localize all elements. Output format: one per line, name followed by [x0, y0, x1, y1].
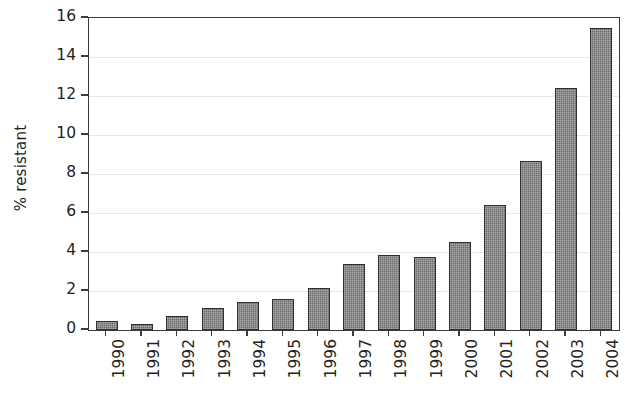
x-axis-tick: [423, 331, 425, 336]
x-axis-tick-label: 1999: [430, 339, 446, 378]
x-axis-tick: [564, 331, 566, 336]
bar-1992: [166, 316, 188, 330]
y-axis-tick-label: 14: [56, 48, 76, 64]
bar-1999: [414, 257, 436, 330]
x-axis-tick-label: 1997: [359, 339, 375, 378]
x-axis-tick: [494, 331, 496, 336]
x-axis-tick-label: 1994: [253, 339, 269, 378]
x-axis-tick: [458, 331, 460, 336]
y-axis-tick: [81, 211, 88, 213]
bar-2001: [484, 205, 506, 330]
y-axis-tick-label: 10: [56, 126, 76, 142]
x-axis-tick-label: 2001: [500, 339, 516, 378]
x-axis-tick: [105, 331, 107, 336]
x-axis-tick-label: 2003: [571, 339, 587, 378]
y-axis-tick-label: 12: [56, 87, 76, 103]
y-axis-tick: [81, 94, 88, 96]
x-axis-tick: [282, 331, 284, 336]
x-axis-tick: [211, 331, 213, 336]
x-axis-tick: [529, 331, 531, 336]
bar-1996: [308, 288, 330, 330]
bar-2000: [449, 242, 471, 330]
y-axis-tick: [81, 289, 88, 291]
y-axis-tick-label: 2: [66, 282, 76, 298]
y-axis-tick: [81, 16, 88, 18]
y-axis-tick-label: 16: [56, 9, 76, 25]
bar-2003: [555, 88, 577, 330]
x-axis-tick-label: 2000: [465, 339, 481, 378]
bar-2004: [590, 28, 612, 330]
bars-layer: [89, 18, 619, 330]
x-axis-tick-label: 1993: [218, 339, 234, 378]
x-axis-tick-label: 1990: [112, 339, 128, 378]
bar-2002: [520, 161, 542, 330]
x-axis: 1990199119921993199419951996199719981999…: [88, 331, 622, 411]
x-axis-tick: [388, 331, 390, 336]
x-axis-tick-label: 1992: [182, 339, 198, 378]
y-axis-tick-label: 6: [66, 204, 76, 220]
y-axis-tick-label: 4: [66, 243, 76, 259]
y-axis-tick: [81, 328, 88, 330]
x-axis-tick-label: 1995: [288, 339, 304, 378]
x-axis-tick-label: 2004: [606, 339, 622, 378]
x-axis-tick-label: 2002: [536, 339, 552, 378]
bar-1990: [96, 321, 118, 330]
x-axis-tick: [317, 331, 319, 336]
y-axis-tick: [81, 55, 88, 57]
y-axis-tick: [81, 133, 88, 135]
x-axis-tick: [176, 331, 178, 336]
bar-1991: [131, 324, 153, 330]
x-axis-tick-label: 1996: [324, 339, 340, 378]
x-axis-tick: [246, 331, 248, 336]
y-axis-tick: [81, 250, 88, 252]
y-axis-tick: [81, 172, 88, 174]
bar-1994: [237, 302, 259, 330]
x-axis-tick: [600, 331, 602, 336]
y-axis: 0246810121416: [0, 0, 88, 411]
bar-chart: % resistant 0246810121416 19901991199219…: [0, 0, 633, 411]
x-axis-tick-label: 1991: [147, 339, 163, 378]
bar-1997: [343, 264, 365, 330]
y-axis-tick-label: 8: [66, 165, 76, 181]
bar-1998: [378, 255, 400, 330]
bar-1995: [272, 299, 294, 330]
x-axis-tick-label: 1998: [394, 339, 410, 378]
plot-area: [88, 17, 620, 331]
bar-1993: [202, 308, 224, 330]
x-axis-tick: [140, 331, 142, 336]
y-axis-tick-label: 0: [66, 321, 76, 337]
x-axis-tick: [352, 331, 354, 336]
